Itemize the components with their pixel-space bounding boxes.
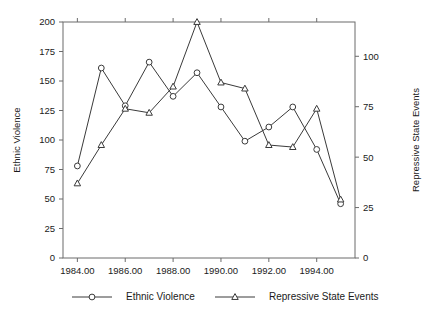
y-axis-tick-label: 25 [44, 223, 55, 234]
line-chart: 025507510012515017520002550751001984.001… [0, 0, 433, 321]
series-2 [74, 19, 344, 202]
data-point-marker [170, 83, 176, 89]
data-point-marker [170, 93, 176, 99]
legend-label: Repressive State Events [269, 291, 379, 302]
data-point-marker [314, 147, 320, 153]
x-axis-tick-label: 1994.00 [300, 265, 334, 276]
data-point-marker [194, 70, 200, 76]
data-point-marker [98, 65, 104, 71]
data-point-marker [218, 104, 224, 110]
series-line [77, 22, 340, 200]
y-axis-tick-label: 50 [44, 193, 55, 204]
y-axis-tick-label: 125 [39, 105, 55, 116]
data-point-marker [266, 142, 272, 148]
data-point-marker [74, 163, 80, 169]
y-axis-title: Ethnic Violence [11, 107, 22, 172]
y-axis-tick-label: 75 [44, 164, 55, 175]
x-axis-tick-label: 1984.00 [60, 265, 94, 276]
y-axis-tick-label: 0 [50, 252, 55, 263]
y2-axis-tick-label: 50 [363, 152, 374, 163]
data-point-marker [218, 79, 224, 85]
data-point-marker [146, 59, 152, 65]
y2-axis-title: Repressive State Events [410, 88, 421, 192]
y-axis-tick-label: 175 [39, 46, 55, 57]
legend-entry-2: Repressive State Events [215, 291, 379, 302]
x-axis-tick-label: 1992.00 [252, 265, 286, 276]
data-point-marker [242, 138, 248, 144]
y-axis-tick-label: 200 [39, 16, 55, 27]
x-axis-tick-label: 1986.00 [108, 265, 142, 276]
data-point-marker [74, 180, 80, 186]
y2-axis-tick-label: 75 [363, 101, 374, 112]
x-axis-tick-label: 1988.00 [156, 265, 190, 276]
legend-label: Ethnic Violence [126, 291, 195, 302]
data-point-marker [290, 104, 296, 110]
y2-axis-tick-label: 100 [363, 51, 379, 62]
legend-marker [89, 294, 95, 300]
y-axis-tick-label: 100 [39, 134, 55, 145]
y2-axis-tick-label: 0 [363, 252, 368, 263]
series-1 [74, 59, 343, 206]
x-axis-tick-label: 1990.00 [204, 265, 238, 276]
chart-figure: 025507510012515017520002550751001984.001… [0, 0, 433, 321]
legend-entry-1: Ethnic Violence [72, 291, 195, 302]
data-point-marker [313, 105, 319, 111]
y2-axis-tick-label: 25 [363, 202, 374, 213]
y-axis-tick-label: 150 [39, 75, 55, 86]
data-point-marker [266, 124, 272, 130]
